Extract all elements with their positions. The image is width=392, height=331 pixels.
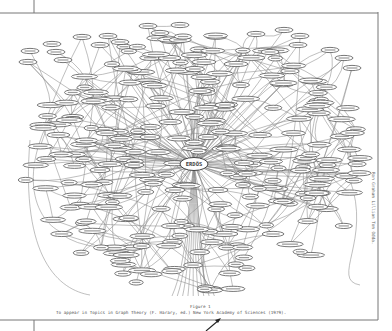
graph-node (133, 243, 150, 248)
graph-node (304, 103, 330, 108)
graph-node (171, 22, 189, 27)
graph-node (139, 23, 157, 28)
graph-node (302, 152, 320, 157)
graph-node (185, 227, 209, 232)
graph-node (216, 146, 241, 151)
graph-node (233, 245, 253, 250)
graph-node (234, 160, 254, 165)
graph-node (232, 96, 260, 101)
graph-node (271, 166, 286, 171)
graph-node (102, 105, 120, 110)
graph-node (75, 157, 92, 162)
graph-node (304, 182, 331, 187)
graph-node (90, 167, 110, 172)
graph-node (185, 114, 204, 119)
graph-node (319, 162, 336, 167)
graph-node (162, 269, 183, 274)
graph-node (47, 132, 70, 137)
graph-node (152, 206, 170, 211)
graph-node (96, 130, 118, 135)
graph-node (343, 65, 361, 70)
graph-node (201, 48, 225, 53)
graph-node (224, 61, 248, 66)
graph-node (337, 106, 360, 111)
graph-node (316, 85, 336, 90)
graph-node (172, 233, 188, 238)
graph-node (77, 85, 92, 90)
graph-node (227, 213, 243, 218)
graph-node (336, 190, 362, 195)
graph-node (95, 205, 123, 210)
graph-node (235, 48, 250, 53)
graph-node (274, 199, 293, 204)
graph-node (265, 178, 282, 183)
graph-node (140, 124, 160, 129)
graph-node (54, 57, 72, 62)
graph-node (252, 186, 267, 191)
graph-node (63, 163, 85, 168)
graph-node (39, 114, 57, 119)
graph-node (144, 181, 162, 186)
graph-node (208, 206, 225, 211)
graph-node (238, 171, 256, 176)
graph-node (181, 52, 207, 57)
graph-node (174, 219, 188, 224)
graph-node (235, 182, 250, 187)
graph-node (220, 171, 235, 176)
graph-node (300, 195, 316, 200)
figure-caption: To appear in Topics in Graph Theory (F. … (56, 310, 286, 315)
graph-node (75, 138, 98, 143)
graph-node (63, 193, 86, 198)
graph-node (237, 55, 265, 60)
graph-node (185, 140, 203, 145)
graph-node (184, 263, 203, 268)
graph-node (146, 103, 166, 108)
graph-node (33, 186, 59, 191)
graph-node (30, 125, 57, 130)
graph-node (337, 147, 361, 152)
graph-node (309, 176, 334, 181)
graph-node (124, 162, 144, 167)
graph-node (56, 118, 83, 123)
graph-node (19, 59, 37, 64)
graph-node (304, 191, 329, 196)
graph-node (348, 161, 366, 166)
graph-node (259, 159, 282, 164)
graph-node (110, 258, 130, 263)
graph-node (275, 27, 293, 32)
graph-node (21, 48, 39, 53)
graph-node (41, 217, 66, 222)
graph-node (104, 143, 125, 148)
graph-node (156, 243, 181, 248)
graph-node (289, 42, 307, 47)
graph-node (235, 255, 252, 260)
graph-node (60, 205, 81, 210)
graph-node (291, 33, 309, 38)
graph-node (37, 157, 56, 162)
graph-node (158, 172, 174, 177)
graph-node (268, 56, 283, 61)
graph-node (140, 272, 162, 277)
graph-node (221, 224, 243, 229)
graph-node (259, 223, 273, 228)
graph-node (55, 100, 79, 105)
graph-node (146, 150, 171, 155)
graph-node (115, 271, 131, 276)
graph-node (208, 187, 228, 192)
graph-node (201, 239, 224, 244)
graph-node (73, 34, 91, 39)
graph-node (108, 193, 132, 198)
graph-node (246, 203, 269, 208)
graph-node (189, 88, 212, 93)
graph-node (173, 60, 188, 65)
graph-node (119, 216, 138, 221)
graph-node (81, 182, 103, 187)
graph-node (321, 47, 339, 52)
center-node: ERDÖS (180, 158, 208, 171)
graph-node (215, 102, 235, 107)
graph-node (198, 134, 218, 139)
graph-node (209, 202, 232, 207)
graph-node (277, 242, 304, 247)
graph-node (270, 80, 298, 85)
graph-node (51, 231, 73, 236)
